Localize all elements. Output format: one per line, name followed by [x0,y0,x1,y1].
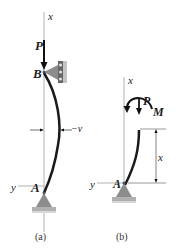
load-label-b: P [143,95,150,107]
axis-x-label-a: x [48,11,53,22]
caption-a: (a) [35,232,46,242]
column-a [44,73,59,193]
load-label-a: P [35,39,43,52]
axis-y-label-a: y [11,182,16,193]
deflection-label: −v [71,124,82,134]
support-b-label: B [33,67,42,80]
wall-hatch [63,61,67,83]
dimension-x-label: x [158,152,163,163]
axis-y-label-b: y [90,179,95,190]
figure-a [18,12,72,232]
diagram-canvas: x P B −v A y (a) x P M x A y (b) [0,0,176,251]
pin-support-a [36,193,52,207]
support-a-label-b: A [113,178,121,190]
support-a-label-a: A [31,181,40,194]
caption-b: (b) [116,232,128,242]
moment-label: M [153,106,164,118]
axis-x-label-b: x [128,75,133,86]
diagram-graphics [0,0,176,251]
ground-a [32,207,56,211]
figure-b [97,77,166,203]
column-b [125,130,139,185]
